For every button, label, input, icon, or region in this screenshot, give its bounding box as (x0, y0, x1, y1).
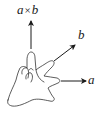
right-hand-rule-diagram (0, 0, 107, 114)
vector-axb-label: a×b (17, 3, 38, 16)
vector-a-label: a (88, 73, 95, 86)
vector-b-arrow (54, 45, 75, 61)
axb-left-operand: a (17, 2, 24, 17)
vector-b-label: b (78, 28, 85, 41)
hand-icon (8, 52, 60, 106)
axb-right-operand: b (32, 2, 39, 17)
cross-operator: × (25, 4, 31, 16)
